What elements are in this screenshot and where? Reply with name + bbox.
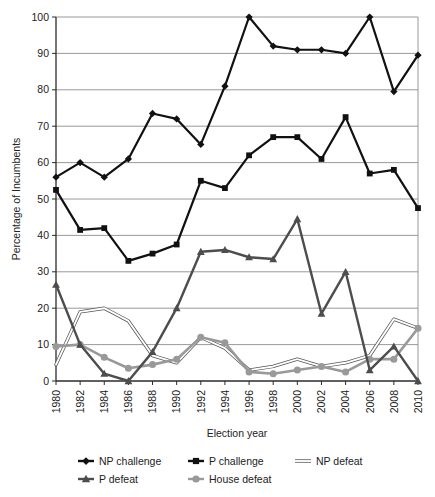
data-point-square bbox=[174, 242, 180, 248]
x-tick-label: 1994 bbox=[219, 390, 231, 414]
x-tick-label: 2006 bbox=[364, 390, 376, 414]
data-point-square bbox=[294, 134, 300, 140]
data-point-square bbox=[77, 227, 83, 233]
x-tick-label: 1990 bbox=[170, 390, 182, 414]
x-tick-label: 1982 bbox=[74, 390, 86, 414]
x-tick-label: 1984 bbox=[98, 390, 110, 414]
legend-label: P defeat bbox=[99, 473, 138, 485]
legend-label: House defeat bbox=[209, 473, 272, 485]
y-tick-label: 80 bbox=[37, 83, 49, 95]
data-point-circle bbox=[125, 365, 132, 372]
data-point-square bbox=[343, 114, 349, 120]
data-point-square bbox=[101, 225, 107, 231]
data-point-circle bbox=[101, 354, 108, 361]
x-tick-label: 1986 bbox=[122, 390, 134, 414]
data-point-square bbox=[193, 458, 199, 464]
x-axis-title: Election year bbox=[207, 427, 268, 439]
y-tick-label: 90 bbox=[37, 47, 49, 59]
data-point-circle bbox=[294, 367, 301, 374]
data-point-square bbox=[126, 258, 132, 264]
data-point-square bbox=[367, 171, 373, 177]
data-point-circle bbox=[192, 475, 199, 482]
x-tick-label: 1992 bbox=[195, 390, 207, 414]
data-point-square bbox=[270, 134, 276, 140]
y-tick-label: 50 bbox=[37, 193, 49, 205]
y-tick-label: 0 bbox=[43, 375, 49, 387]
x-tick-label: 2000 bbox=[291, 390, 303, 414]
data-point-circle bbox=[53, 343, 60, 350]
data-point-circle bbox=[415, 325, 422, 332]
x-tick-label: 1998 bbox=[267, 390, 279, 414]
data-point-square bbox=[198, 178, 204, 184]
x-tick-label: 1980 bbox=[50, 390, 62, 414]
line-chart: 0102030405060708090100 19801982198419861… bbox=[0, 0, 435, 497]
data-point-square bbox=[391, 167, 397, 173]
x-tick-label: 1988 bbox=[146, 390, 158, 414]
y-tick-label: 60 bbox=[37, 156, 49, 168]
y-tick-label: 10 bbox=[37, 338, 49, 350]
y-tick-label: 30 bbox=[37, 265, 49, 277]
data-point-circle bbox=[197, 334, 204, 341]
data-point-square bbox=[415, 205, 421, 211]
chart-figure: 0102030405060708090100 19801982198419861… bbox=[0, 0, 435, 497]
y-tick-label: 100 bbox=[31, 11, 49, 23]
y-tick-label: 40 bbox=[37, 229, 49, 241]
data-point-square bbox=[222, 185, 228, 191]
x-tick-label: 1996 bbox=[243, 390, 255, 414]
chart-background bbox=[0, 0, 435, 497]
legend-label: NP defeat bbox=[316, 455, 363, 467]
y-tick-label: 20 bbox=[37, 302, 49, 314]
x-tick-label: 2002 bbox=[315, 390, 327, 414]
data-point-square bbox=[319, 156, 325, 162]
y-tick-label: 70 bbox=[37, 120, 49, 132]
data-point-circle bbox=[173, 356, 180, 363]
data-point-circle bbox=[342, 368, 349, 375]
y-axis-title: Percentage of Incumbents bbox=[10, 138, 22, 261]
data-point-square bbox=[53, 187, 59, 193]
data-point-circle bbox=[149, 361, 156, 368]
data-point-circle bbox=[221, 339, 228, 346]
legend-label: P challenge bbox=[209, 455, 264, 467]
legend-label: NP challenge bbox=[99, 455, 161, 467]
x-tick-label: 2004 bbox=[339, 390, 351, 414]
data-point-circle bbox=[270, 370, 277, 377]
data-point-square bbox=[150, 251, 156, 257]
data-point-circle bbox=[246, 368, 253, 375]
x-tick-label: 2010 bbox=[412, 390, 424, 414]
x-tick-label: 2008 bbox=[388, 390, 400, 414]
data-point-square bbox=[246, 152, 252, 158]
data-point-circle bbox=[390, 356, 397, 363]
data-point-circle bbox=[318, 363, 325, 370]
